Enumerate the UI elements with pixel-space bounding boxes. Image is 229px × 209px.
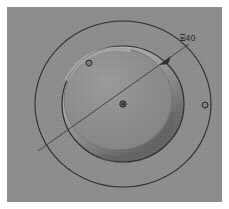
- diameter-dimension-label[interactable]: ⌸40: [180, 33, 196, 44]
- screenshot-canvas: ⌸40: [0, 0, 229, 209]
- center-point-dot: [122, 103, 124, 105]
- cad-drawing-viewport[interactable]: ⌸40: [7, 7, 222, 202]
- point-marker-upper-left[interactable]: [86, 60, 92, 66]
- point-marker-right-edge[interactable]: [202, 102, 208, 108]
